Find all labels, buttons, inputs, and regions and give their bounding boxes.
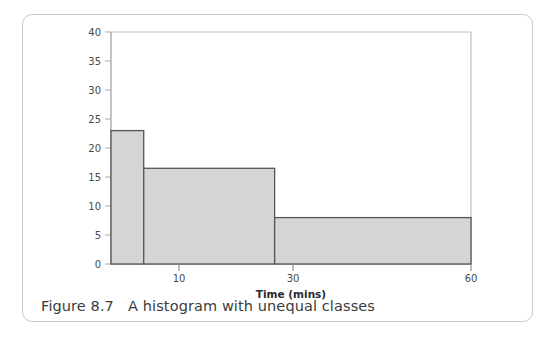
- y-tick-label-35: 35: [88, 56, 101, 67]
- y-tick-label-40: 40: [88, 27, 101, 38]
- x-axis-ticks: [179, 264, 471, 271]
- y-axis-tick-labels: 0 5 10 15 20 25 30 35 40: [88, 27, 101, 270]
- histogram-bars: [111, 131, 471, 264]
- x-tick-label-60: 60: [465, 273, 478, 284]
- histogram-bar-1: [111, 131, 144, 264]
- figure-caption: Figure 8.7 A histogram with unequal clas…: [41, 298, 375, 314]
- histogram-chart: 0 5 10 15 20 25 30 35 40: [23, 15, 534, 323]
- figure-card: 0 5 10 15 20 25 30 35 40: [22, 14, 533, 322]
- x-tick-label-10: 10: [173, 273, 186, 284]
- y-tick-label-0: 0: [95, 259, 101, 270]
- histogram-bar-2: [144, 168, 275, 264]
- y-tick-label-20: 20: [88, 143, 101, 154]
- y-tick-label-5: 5: [95, 230, 101, 241]
- x-axis-tick-labels: 10 30 60: [173, 273, 478, 284]
- histogram-bar-3: [275, 218, 471, 264]
- y-tick-label-25: 25: [88, 114, 101, 125]
- y-tick-label-10: 10: [88, 201, 101, 212]
- x-tick-label-30: 30: [287, 273, 300, 284]
- chart-svg: 0 5 10 15 20 25 30 35 40: [1, 1, 555, 340]
- y-tick-label-30: 30: [88, 85, 101, 96]
- y-tick-label-15: 15: [88, 172, 101, 183]
- y-axis-ticks: [105, 32, 111, 264]
